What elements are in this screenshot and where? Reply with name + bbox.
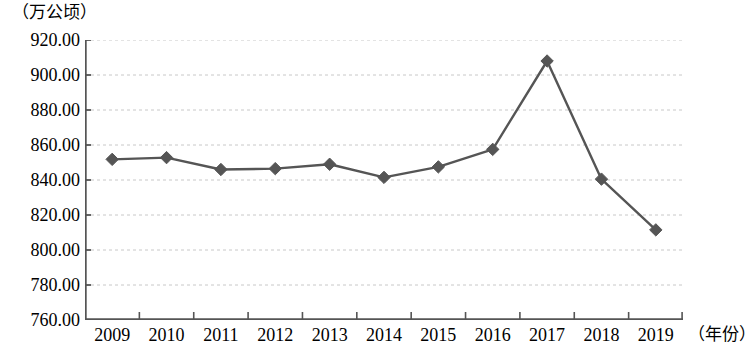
data-point-marker xyxy=(269,162,281,174)
x-axis-tick-label: 2016 xyxy=(463,325,523,345)
x-axis-tick-label: 2014 xyxy=(354,325,414,345)
x-axis-tick-labels: 2009201020112012201320142015201620172018… xyxy=(85,325,685,351)
x-axis-tick-label: 2015 xyxy=(408,325,468,345)
data-point-marker xyxy=(160,151,172,163)
x-axis-tick-label: 2019 xyxy=(626,325,686,345)
data-point-marker xyxy=(541,55,553,67)
x-axis-unit-label: （年份） xyxy=(688,324,755,346)
y-axis-tick-label: 840.00 xyxy=(4,171,80,189)
y-axis-tick-label: 880.00 xyxy=(4,101,80,119)
y-axis-tick-label: 800.00 xyxy=(4,241,80,259)
y-axis-tick-label: 780.00 xyxy=(4,276,80,294)
x-axis-tick-label: 2013 xyxy=(300,325,360,345)
data-point-marker xyxy=(215,163,227,175)
x-axis-tick-label: 2009 xyxy=(82,325,142,345)
x-axis-tick-label: 2018 xyxy=(571,325,631,345)
data-point-marker xyxy=(432,161,444,173)
plot-area xyxy=(85,40,683,320)
x-axis-tick-label: 2010 xyxy=(137,325,197,345)
data-point-marker xyxy=(106,153,118,165)
x-axis-tick-label: 2012 xyxy=(245,325,305,345)
data-point-marker xyxy=(323,158,335,170)
y-axis-tick-label: 920.00 xyxy=(4,31,80,49)
x-axis-tick-label: 2017 xyxy=(517,325,577,345)
y-axis-tick-label: 860.00 xyxy=(4,136,80,154)
y-axis-tick-labels: 920.00900.00880.00860.00840.00820.00800.… xyxy=(0,0,80,353)
y-axis-tick-label: 900.00 xyxy=(4,66,80,84)
data-point-marker xyxy=(378,171,390,183)
plot-svg xyxy=(85,40,683,320)
y-axis-tick-label: 760.00 xyxy=(4,311,80,329)
y-axis-tick-label: 820.00 xyxy=(4,206,80,224)
line-chart: （万公顷） 920.00900.00880.00860.00840.00820.… xyxy=(0,0,755,353)
x-axis-tick-label: 2011 xyxy=(191,325,251,345)
